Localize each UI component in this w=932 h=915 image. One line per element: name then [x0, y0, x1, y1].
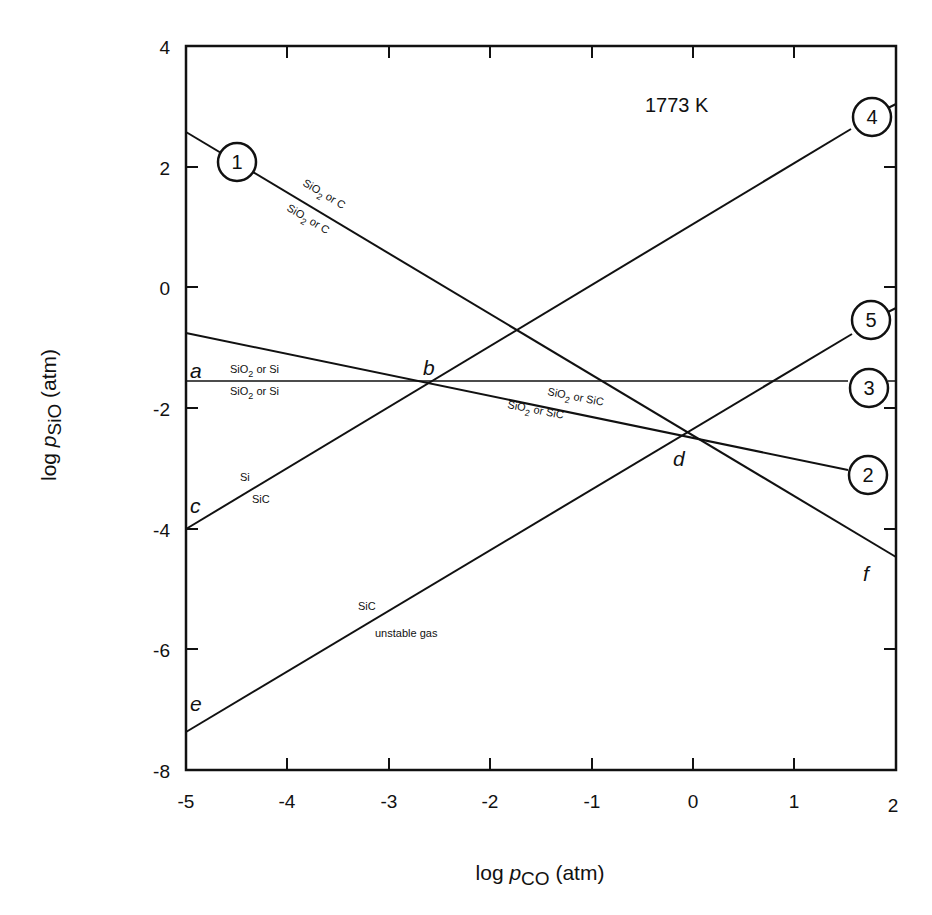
xtick-1: 1 [789, 791, 800, 812]
label-sio2-si-above: SiO2 or Si [230, 363, 279, 379]
point-d: d [673, 447, 686, 470]
x-tick-labels: -5 -4 -3 -2 -1 0 1 2 [178, 791, 899, 816]
ytick-4: 4 [159, 37, 170, 58]
equilibrium-lines [186, 104, 896, 732]
point-c: c [190, 494, 201, 517]
ytick-neg2: -2 [153, 399, 170, 420]
label-sio2-c-below: or SiCSiO2 or C [283, 201, 332, 239]
ytick-2: 2 [159, 158, 170, 179]
phase-diagram-chart: 4 2 0 -2 -4 -6 -8 -5 -4 -3 -2 -1 0 1 2 l… [0, 0, 932, 915]
label-sic: SiC [252, 493, 270, 505]
line-5 [186, 334, 852, 732]
y-axis-title: log pSiO (atm) [37, 349, 65, 481]
label-si: Si [240, 471, 250, 483]
xtick-neg3: -3 [381, 791, 398, 812]
x-axis-title: log pCO (atm) [476, 861, 605, 889]
line-4 [186, 129, 851, 529]
ytick-neg8: -8 [153, 761, 170, 782]
y-tick-labels: 4 2 0 -2 -4 -6 -8 [153, 37, 170, 782]
line-markers: 1 4 5 3 2 [218, 98, 891, 494]
region-labels: SiO2 or C or SiCSiO2 or C SiO2 or Si SiO… [230, 176, 605, 639]
marker-5: 5 [852, 301, 890, 339]
label-sio2-si-below: SiO2 or Si [230, 385, 279, 401]
xtick-neg5: -5 [178, 791, 195, 812]
ytick-neg6: -6 [153, 640, 170, 661]
xtick-neg1: -1 [584, 791, 601, 812]
point-b: b [423, 356, 435, 379]
marker-4: 4 [853, 98, 891, 136]
xtick-neg2: -2 [482, 791, 499, 812]
marker-3: 3 [850, 369, 888, 407]
svg-text:2: 2 [862, 464, 873, 486]
ytick-0: 0 [159, 278, 170, 299]
marker-2: 2 [849, 456, 887, 494]
point-a: a [190, 359, 202, 382]
xtick-2: 2 [888, 795, 899, 816]
xtick-neg4: -4 [279, 791, 296, 812]
label-sio2-sic-below: SiO2 or SiC [506, 398, 565, 425]
temperature-label: 1773 K [645, 94, 709, 116]
point-e: e [190, 692, 202, 715]
label-unstable-gas: unstable gas [375, 627, 438, 639]
label-sio2-c-above: SiO2 or C [299, 176, 348, 214]
xtick-0: 0 [688, 791, 699, 812]
svg-text:5: 5 [865, 309, 876, 331]
svg-text:4: 4 [866, 106, 877, 128]
svg-text:1: 1 [231, 151, 242, 173]
line-1 [186, 132, 896, 557]
label-sic-2: SiC [358, 600, 376, 612]
marker-1: 1 [218, 143, 256, 181]
ytick-neg4: -4 [153, 520, 170, 541]
point-f: f [863, 562, 871, 585]
svg-text:3: 3 [863, 377, 874, 399]
